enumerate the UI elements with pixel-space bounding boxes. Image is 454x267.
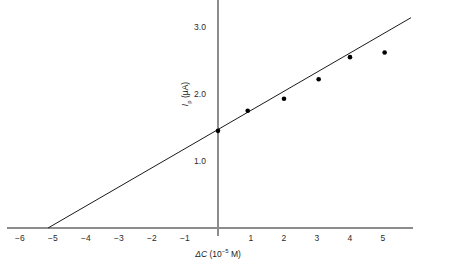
data-point [316,77,321,82]
x-tick-label: 5 [381,233,386,243]
data-point [216,129,221,134]
y-tick-label: 1.0 [194,156,206,166]
data-point [282,96,287,101]
regression-line [48,18,411,228]
x-axis-label-unit-open: (10 [207,249,222,259]
x-tick-label: 4 [348,233,353,243]
calibration-scatter-plot [0,0,454,267]
axes-group [7,0,413,236]
x-tick-label: 2 [282,233,287,243]
x-tick-label: −2 [147,233,157,243]
x-tick-label: 1 [249,233,254,243]
x-axis-label: ΔC (10−5 M) [195,248,241,259]
data-point [348,55,353,60]
x-tick-label: −6 [15,233,25,243]
y-axis-label: Ip (µA) [180,82,192,106]
data-point [245,108,250,113]
y-tick-label: 2.0 [194,89,206,99]
data-point [382,50,387,55]
y-axis-label-subscript: p [186,100,192,103]
data-points-group [216,50,387,133]
x-axis-label-symbol: ΔC [195,249,207,259]
x-tick-label: 3 [315,233,320,243]
x-tick-label: −5 [48,233,58,243]
x-axis-label-unit-close: M) [229,249,241,259]
x-tick-label: −4 [81,233,91,243]
regression-line-group [48,18,411,228]
chart-container: −6−5−4−3−2−1123451.02.03.0 ΔC (10−5 M) I… [0,0,454,267]
y-tick-label: 3.0 [194,22,206,32]
x-tick-label: −1 [180,233,190,243]
x-tick-label: −3 [114,233,124,243]
y-axis-label-unit: (µA) [180,82,190,101]
